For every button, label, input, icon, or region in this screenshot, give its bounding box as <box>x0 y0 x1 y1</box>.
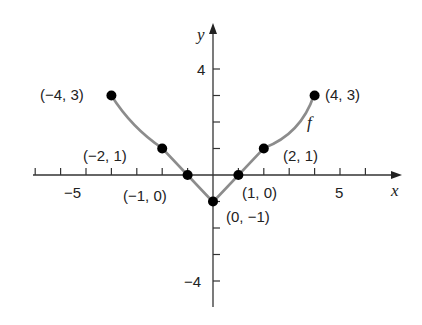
x-axis-label: x <box>390 181 399 200</box>
point-label: (4, 3) <box>325 86 360 103</box>
point-label: (−4, 3) <box>40 86 84 103</box>
data-point <box>310 91 320 101</box>
point-label: (2, 1) <box>283 147 318 164</box>
function-label: f <box>307 113 314 132</box>
data-point <box>259 144 269 154</box>
data-point <box>233 170 243 180</box>
function-graph: x y f −5 5 4 −4 (−4, 3) (−2, 1) (−1, 0) … <box>0 0 422 325</box>
data-point <box>183 170 193 180</box>
x-tick-label-neg5: −5 <box>64 184 81 201</box>
x-tick-label-5: 5 <box>335 184 343 201</box>
data-point <box>106 91 116 101</box>
data-point <box>208 197 218 207</box>
y-tick-label-4: 4 <box>197 61 205 78</box>
point-label: (−2, 1) <box>83 147 127 164</box>
y-tick-label-neg4: −4 <box>184 273 201 290</box>
point-label: (1, 0) <box>242 184 277 201</box>
data-point <box>157 144 167 154</box>
point-label: (0, −1) <box>226 208 270 225</box>
y-axis-label: y <box>195 25 205 44</box>
x-axis-arrow-icon <box>391 171 402 179</box>
point-label: (−1, 0) <box>123 187 167 204</box>
x-ticks <box>35 168 365 175</box>
y-axis-arrow-icon <box>209 23 217 34</box>
